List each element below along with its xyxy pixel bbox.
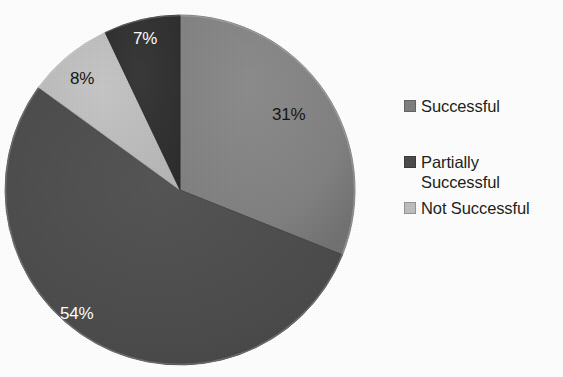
legend-swatch-icon-not-successful xyxy=(404,202,416,214)
legend-label-partially-successful: Partially Successful xyxy=(421,152,500,192)
legend-label-successful: Successful xyxy=(421,96,500,116)
pie-chart-svg xyxy=(0,0,380,377)
legend-item-partially-successful[interactable]: Partially Successful xyxy=(404,152,563,192)
pie-label-successful: 31% xyxy=(272,105,305,125)
pie-label-partially-successful: 54% xyxy=(60,304,93,324)
legend-item-not-successful[interactable]: Not Successful xyxy=(404,198,563,218)
chart-legend: Successful Partially Successful Not Succ… xyxy=(404,96,563,218)
pie-label-not-successful: 8% xyxy=(70,69,94,89)
legend-swatch-icon-successful xyxy=(404,100,416,112)
legend-label-not-successful: Not Successful xyxy=(421,198,530,218)
pie-chart-plot-area: 31% 54% 8% 7% xyxy=(0,0,380,377)
legend-swatch-icon-partially-successful xyxy=(404,156,416,168)
pie-label-fourth: 7% xyxy=(133,29,157,49)
pie-chart-figure: 31% 54% 8% 7% Successful Partially Succe… xyxy=(0,0,563,377)
legend-item-successful[interactable]: Successful xyxy=(404,96,563,116)
